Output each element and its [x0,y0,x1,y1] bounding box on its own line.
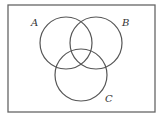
set-b-circle [70,17,122,69]
set-a-circle [40,17,92,69]
set-c-label: C [105,93,113,104]
set-c-circle [55,49,107,101]
set-a-label: A [30,17,38,28]
set-b-label: B [121,17,129,28]
venn-diagram: A B C [0,0,162,121]
